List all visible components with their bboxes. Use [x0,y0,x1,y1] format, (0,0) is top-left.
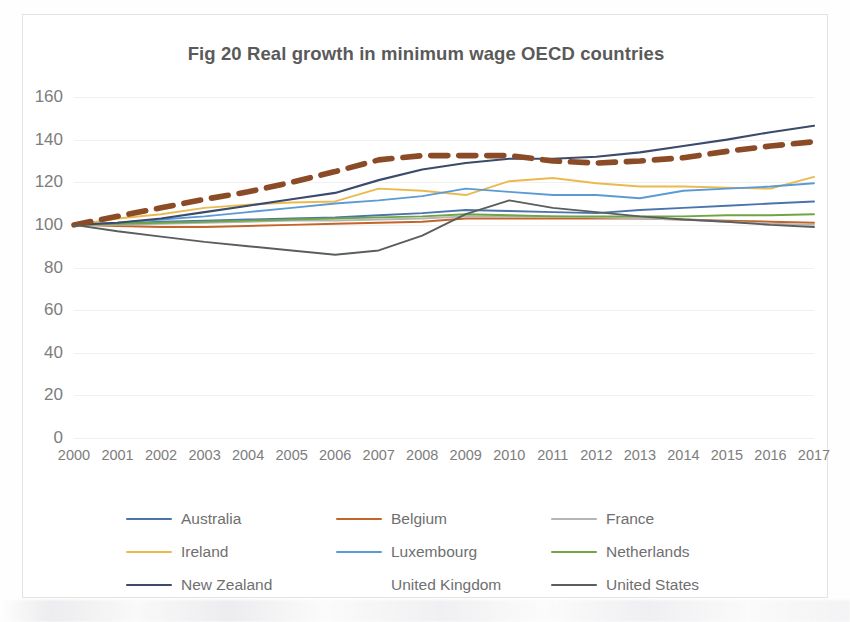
legend-row: AustraliaBelgiumFrance [126,502,746,535]
x-axis-tick-label: 2007 [363,447,395,463]
legend-swatch-line [551,550,597,552]
y-axis-tick-label: 60 [44,300,63,320]
x-axis-tick-label: 2015 [711,447,743,463]
y-axis-tick-label: 100 [35,215,63,235]
legend-swatch-ireland [126,546,172,557]
legend-swatch-line [336,582,382,588]
scan-artifact-band [0,600,850,622]
series-lines-group [74,97,814,438]
x-axis-tick-label: 2012 [580,447,612,463]
chart-legend: AustraliaBelgiumFranceIrelandLuxembourgN… [126,502,746,601]
legend-swatch-united-kingdom [336,579,382,590]
legend-item-united-kingdom[interactable]: United Kingdom [336,576,551,594]
y-axis-tick-label: 80 [44,258,63,278]
y-axis-tick-label: 20 [44,385,63,405]
x-axis-tick-label: 2002 [145,447,177,463]
legend-label-united-states: United States [606,576,699,594]
legend-swatch-united-states [551,579,597,590]
legend-row: IrelandLuxembourgNetherlands [126,535,746,568]
legend-item-ireland[interactable]: Ireland [126,543,336,561]
x-axis-tick-label: 2010 [493,447,525,463]
legend-swatch-new-zealand [126,579,172,590]
gridline [74,438,814,439]
legend-label-netherlands: Netherlands [606,543,690,561]
legend-label-new-zealand: New Zealand [181,576,272,594]
legend-item-australia[interactable]: Australia [126,510,336,528]
legend-swatch-line [336,517,382,519]
legend-item-luxembourg[interactable]: Luxembourg [336,543,551,561]
legend-swatch-line [551,517,597,519]
legend-swatch-line [126,517,172,519]
plot-area: 020406080100120140160 200020012002200320… [74,97,814,438]
legend-swatch-netherlands [551,546,597,557]
legend-item-belgium[interactable]: Belgium [336,510,551,528]
y-axis-tick-label: 140 [35,130,63,150]
x-axis-tick-label: 2005 [276,447,308,463]
legend-swatch-france [551,513,597,524]
chart-figure-card: Fig 20 Real growth in minimum wage OECD … [22,14,828,598]
x-axis-tick-label: 2008 [406,447,438,463]
x-axis-tick-label: 2017 [798,447,830,463]
legend-item-france[interactable]: France [551,510,746,528]
x-axis-tick-label: 2000 [58,447,90,463]
x-axis-tick-label: 2006 [319,447,351,463]
legend-item-new-zealand[interactable]: New Zealand [126,576,336,594]
y-axis-tick-label: 160 [35,87,63,107]
legend-row: New ZealandUnited KingdomUnited States [126,568,746,601]
legend-swatch-australia [126,513,172,524]
legend-swatch-line [126,550,172,552]
legend-label-belgium: Belgium [391,510,447,528]
legend-swatch-belgium [336,513,382,524]
legend-swatch-luxembourg [336,546,382,557]
legend-label-australia: Australia [181,510,241,528]
x-axis-tick-label: 2001 [101,447,133,463]
legend-swatch-line [126,583,172,585]
x-axis-tick-label: 2016 [754,447,786,463]
x-axis-tick-label: 2003 [188,447,220,463]
legend-swatch-line [336,550,382,552]
y-axis-tick-label: 120 [35,172,63,192]
legend-label-ireland: Ireland [181,543,228,561]
x-axis-tick-label: 2004 [232,447,264,463]
legend-swatch-line [551,583,597,585]
legend-item-united-states[interactable]: United States [551,576,746,594]
x-axis-tick-label: 2014 [667,447,699,463]
legend-label-france: France [606,510,654,528]
y-axis-tick-label: 40 [44,343,63,363]
legend-label-luxembourg: Luxembourg [391,543,477,561]
y-axis-tick-label: 0 [54,428,63,448]
legend-item-netherlands[interactable]: Netherlands [551,543,746,561]
legend-label-united-kingdom: United Kingdom [391,576,501,594]
x-axis-tick-label: 2013 [624,447,656,463]
x-axis-tick-label: 2009 [450,447,482,463]
x-axis-tick-label: 2011 [537,447,568,463]
